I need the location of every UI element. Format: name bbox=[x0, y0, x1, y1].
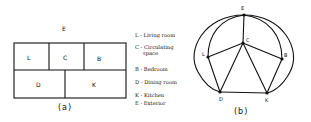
room-bedroom-label: B bbox=[97, 55, 101, 62]
legend-item-circulating-cont: space bbox=[143, 51, 158, 56]
node-d-dot bbox=[218, 90, 221, 93]
room-circulating-label: C bbox=[63, 54, 67, 61]
edge-d-k bbox=[220, 92, 267, 93]
node-l-label: L bbox=[202, 51, 205, 57]
caption-b: (b) bbox=[234, 107, 248, 116]
node-e-dot bbox=[242, 13, 245, 16]
room-living-label: L bbox=[27, 54, 30, 61]
node-l-dot bbox=[206, 55, 209, 58]
floor-plan bbox=[14, 43, 126, 98]
caption-a: (a) bbox=[58, 103, 72, 112]
legend-item-exterior: E - Exterior bbox=[135, 101, 165, 106]
edge-c-b bbox=[243, 43, 282, 59]
node-d-label: D bbox=[219, 96, 223, 102]
node-k-label: K bbox=[265, 97, 268, 103]
exterior-label: E bbox=[62, 25, 66, 32]
node-k-dot bbox=[265, 91, 268, 94]
node-c-dot bbox=[241, 41, 244, 44]
legend-item-bedroom: B - Bedroom bbox=[135, 67, 168, 72]
edge-c-k bbox=[243, 43, 267, 93]
edge-b-k bbox=[267, 59, 282, 93]
edge-e-l bbox=[208, 15, 244, 57]
legend-item-living: L - Living room bbox=[135, 33, 175, 38]
room-dining-label: D bbox=[36, 81, 41, 88]
room-kitchen-label: K bbox=[92, 81, 96, 88]
node-c-label: C bbox=[246, 37, 250, 43]
edge-e-c bbox=[243, 15, 244, 43]
node-b-label: B bbox=[284, 52, 287, 58]
legend-item-dining: D - Dining room bbox=[135, 80, 177, 85]
legend-item-kitchen: K - Kitchen bbox=[135, 93, 164, 98]
node-e-label: E bbox=[241, 5, 244, 11]
adjacency-graph bbox=[194, 15, 294, 93]
